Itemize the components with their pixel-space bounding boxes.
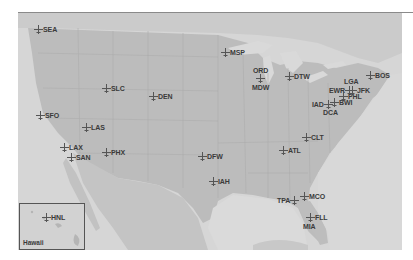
airport-code: SFO [45, 112, 59, 119]
airport-code: SLC [111, 85, 125, 92]
airport-code: MIA [303, 223, 316, 230]
airport-sfo[interactable]: SFO [36, 111, 59, 120]
hawaii-inset[interactable]: HNL Hawaii [19, 203, 85, 250]
airplane-icon [290, 196, 299, 205]
airport-mia[interactable]: MIA [303, 223, 316, 230]
airport-ord-mdw-marker[interactable] [256, 74, 265, 83]
airport-fll[interactable]: FLL [306, 213, 328, 222]
airport-code: PHX [111, 149, 125, 156]
airplane-icon [285, 72, 294, 81]
airplane-icon [221, 48, 230, 57]
airport-code: DEN [158, 93, 172, 100]
airplane-icon [42, 213, 51, 222]
airport-code: LGA [344, 78, 358, 85]
airport-clt[interactable]: CLT [302, 133, 324, 142]
airport-code: SEA [43, 26, 57, 33]
airport-code: DCA [323, 109, 338, 116]
airport-code: MSP [230, 49, 245, 56]
airplane-icon [256, 74, 265, 83]
airport-iah[interactable]: IAH [209, 177, 230, 186]
airport-msp[interactable]: MSP [221, 48, 245, 57]
airplane-icon [209, 177, 218, 186]
airplane-icon [36, 111, 45, 120]
airport-code: DFW [207, 153, 223, 160]
airport-code: MCO [309, 193, 325, 200]
airport-code: ATL [288, 147, 301, 154]
airport-mco[interactable]: MCO [300, 192, 325, 201]
airport-san[interactable]: SAN [67, 153, 90, 162]
airplane-icon [302, 133, 311, 142]
airport-lax[interactable]: LAX [60, 143, 83, 152]
airport-dtw[interactable]: DTW [285, 72, 310, 81]
airport-phx[interactable]: PHX [102, 148, 125, 157]
airport-code: IAH [218, 178, 230, 185]
airport-lga[interactable]: LGA [344, 78, 358, 85]
airplane-icon [67, 153, 76, 162]
airport-dfw[interactable]: DFW [198, 152, 223, 161]
airport-code: IAD [312, 101, 324, 108]
airport-sea[interactable]: SEA [34, 25, 57, 34]
airplane-icon [60, 143, 69, 152]
airport-atl[interactable]: ATL [279, 146, 301, 155]
airport-code: SAN [76, 154, 90, 161]
airport-code: ORD [253, 67, 268, 74]
airport-mdw[interactable]: MDW [252, 84, 269, 91]
airport-code: BOS [375, 72, 390, 79]
airport-ord[interactable]: ORD [253, 67, 268, 74]
airport-las[interactable]: LAS [82, 123, 105, 132]
airport-code: MDW [252, 84, 269, 91]
airplane-icon [300, 192, 309, 201]
hawaii-label: Hawaii [23, 239, 44, 246]
airplane-icon [366, 71, 375, 80]
airport-code: LAX [69, 144, 83, 151]
airplane-icon [82, 123, 91, 132]
airplane-icon [102, 84, 111, 93]
airport-code: DTW [294, 73, 310, 80]
airport-hnl[interactable]: HNL [42, 213, 65, 222]
airplane-icon [306, 213, 315, 222]
airport-code: LAS [91, 124, 105, 131]
airplane-icon [279, 146, 288, 155]
airplane-icon [198, 152, 207, 161]
airport-code: HNL [51, 214, 65, 221]
airport-code: TPA [277, 197, 290, 204]
airplane-icon [102, 148, 111, 157]
airport-dca[interactable]: DCA [323, 109, 338, 116]
airplane-icon [149, 92, 158, 101]
airport-code: CLT [311, 134, 324, 141]
airport-bwi[interactable]: BWI [330, 98, 352, 107]
airport-tpa[interactable]: TPA [277, 196, 299, 205]
airport-code: FLL [315, 214, 328, 221]
airport-slc[interactable]: SLC [102, 84, 125, 93]
airplane-icon [330, 98, 339, 107]
airplane-icon [34, 25, 43, 34]
airport-den[interactable]: DEN [149, 92, 172, 101]
airport-code: BWI [339, 99, 352, 106]
airport-bos[interactable]: BOS [366, 71, 390, 80]
